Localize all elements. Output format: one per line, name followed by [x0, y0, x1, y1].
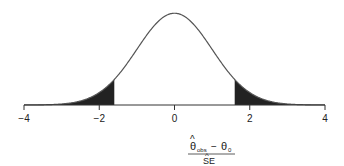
xlabel-se: SE: [203, 156, 215, 166]
x-axis-label: ^ θ obs − θ 0 ^ SE: [188, 134, 235, 166]
x-tick-label: 4: [322, 113, 328, 124]
xlabel-theta0-sub: 0: [228, 147, 232, 153]
x-tick-label: −4: [18, 113, 30, 124]
xlabel-theta0: θ: [221, 140, 227, 152]
density-curve: [24, 13, 325, 105]
x-tick-label: 2: [247, 113, 253, 124]
shaded-tail-areas: [24, 79, 325, 105]
x-tick-label: 0: [172, 113, 178, 124]
xlabel-theta-hat: θ: [190, 140, 196, 152]
x-axis-ticks: −4−2024: [18, 105, 328, 124]
x-tick-label: −2: [94, 113, 106, 124]
normal-distribution-chart: −4−2024 ^ θ obs − θ 0 ^ SE: [0, 0, 344, 166]
xlabel-minus: −: [211, 141, 217, 152]
